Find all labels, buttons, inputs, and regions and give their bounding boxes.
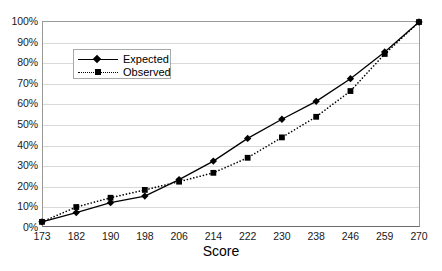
data-point-observed — [245, 155, 251, 161]
data-point-observed — [73, 204, 79, 210]
data-point-expected — [244, 135, 251, 142]
data-point-expected — [313, 98, 320, 105]
data-point-observed — [416, 19, 422, 25]
x-axis-title: Score — [0, 243, 442, 259]
data-point-expected — [73, 209, 80, 216]
legend-key-expected-icon — [77, 53, 119, 65]
data-point-observed — [210, 170, 216, 176]
data-point-observed — [382, 51, 388, 57]
data-point-expected — [210, 157, 217, 164]
legend-key-observed-icon — [77, 66, 119, 78]
y-axis-tick-label: 40% — [17, 139, 38, 151]
data-point-observed — [39, 219, 45, 225]
legend-item-expected: Expected — [77, 53, 166, 65]
data-point-expected — [278, 116, 285, 123]
legend-item-observed: Observed — [77, 66, 166, 78]
x-axis-tick-label: 173 — [33, 230, 50, 242]
x-axis-tick-label: 230 — [273, 230, 290, 242]
y-axis-tick-label: 30% — [17, 159, 38, 171]
x-axis-tick-label: 206 — [170, 230, 187, 242]
x-axis-tick-label: 190 — [102, 230, 119, 242]
data-point-observed — [176, 179, 182, 185]
y-axis-tick-label: 90% — [17, 36, 38, 48]
data-point-observed — [279, 134, 285, 140]
y-axis-tick-label: 100% — [12, 15, 38, 27]
x-axis-tick-label: 198 — [136, 230, 153, 242]
line-chart: 100%90%80%70%60%50%40%30%20%10%0% Expect… — [0, 0, 442, 271]
data-point-observed — [142, 187, 148, 193]
x-axis-tick-label: 246 — [342, 230, 359, 242]
legend-label-expected: Expected — [119, 53, 169, 65]
data-point-observed — [348, 88, 354, 94]
y-axis-tick-labels: 100%90%80%70%60%50%40%30%20%10%0% — [0, 21, 38, 227]
x-axis-tick-label: 259 — [376, 230, 393, 242]
y-axis-tick-label: 10% — [17, 200, 38, 212]
legend: Expected Observed — [73, 49, 171, 79]
legend-label-observed: Observed — [119, 66, 171, 78]
y-axis-tick-label: 80% — [17, 56, 38, 68]
data-point-observed — [108, 195, 114, 201]
y-axis-tick-label: 50% — [17, 118, 38, 130]
data-point-expected — [141, 192, 148, 199]
x-axis-tick-label: 270 — [410, 230, 427, 242]
y-axis-tick-label: 70% — [17, 77, 38, 89]
data-point-observed — [313, 114, 319, 120]
x-axis-tick-label: 238 — [308, 230, 325, 242]
y-axis-tick-label: 20% — [17, 180, 38, 192]
x-axis-tick-label: 222 — [239, 230, 256, 242]
x-axis-tick-label: 182 — [68, 230, 85, 242]
x-axis-tick-label: 214 — [205, 230, 222, 242]
y-axis-tick-label: 60% — [17, 97, 38, 109]
